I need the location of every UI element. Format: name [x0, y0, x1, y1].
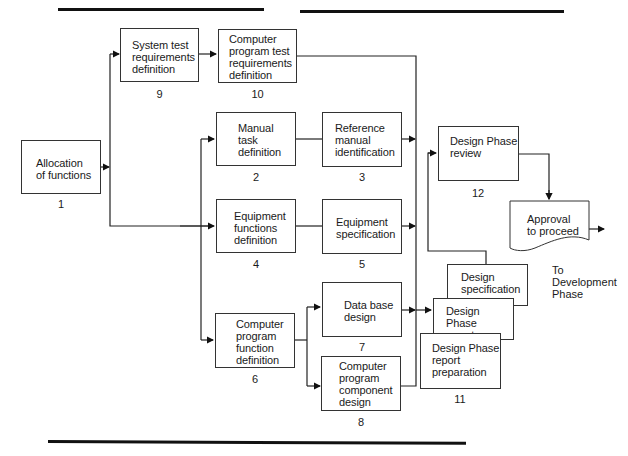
node-label: Manual task definition: [238, 122, 281, 158]
node-design-phase-report-preparation: Design Phase report preparation: [420, 333, 501, 389]
exit-label: To Development Phase: [552, 264, 617, 300]
node-label: Equipment specification: [336, 216, 395, 240]
node-number: 4: [216, 258, 296, 270]
node-label: Design specification: [461, 271, 520, 295]
node-allocation-of-functions: Allocation of functions: [21, 140, 101, 194]
approval-label: Approval to proceed: [527, 213, 579, 237]
node-computer-program-test-requirements: Computer program test requirements defin…: [218, 29, 297, 83]
node-computer-program-function-definition: Computer program function definition: [215, 313, 295, 368]
node-computer-program-component-design: Computer program component design: [321, 356, 401, 411]
node-data-base-design: Data base design: [322, 282, 402, 337]
node-system-test-requirements: System test requirements definition: [120, 28, 199, 82]
node-label: Reference manual identification: [335, 122, 395, 158]
node-label: Design Phase review: [450, 135, 517, 159]
node-manual-task-definition: Manual task definition: [216, 112, 296, 166]
node-label: Computer program test requirements defin…: [229, 33, 292, 81]
node-label: Data base design: [344, 299, 393, 323]
node-number: 9: [120, 88, 199, 100]
node-number: 1: [21, 198, 101, 210]
node-equipment-functions-definition: Equipment functions definition: [216, 199, 296, 253]
node-number: 5: [322, 258, 402, 270]
node-reference-manual-identification: Reference manual identification: [322, 112, 402, 167]
node-label: Allocation of functions: [36, 157, 91, 181]
node-number: 7: [322, 341, 402, 353]
node-number: 11: [440, 393, 480, 405]
node-number: 10: [218, 88, 297, 100]
node-equipment-specification: Equipment specification: [322, 199, 402, 254]
node-label: Computer program function definition: [236, 318, 284, 366]
node-design-phase-review: Design Phase review: [438, 126, 519, 181]
node-number: 8: [321, 416, 401, 428]
node-number: 12: [458, 187, 498, 199]
node-label: Computer program component design: [339, 360, 393, 408]
node-label: Equipment functions definition: [234, 210, 286, 246]
node-label: Design Phase report preparation: [432, 342, 499, 378]
node-label: System test requirements definition: [132, 39, 195, 75]
node-number: 2: [216, 171, 296, 183]
node-number: 6: [245, 373, 265, 385]
node-number: 3: [322, 171, 402, 183]
